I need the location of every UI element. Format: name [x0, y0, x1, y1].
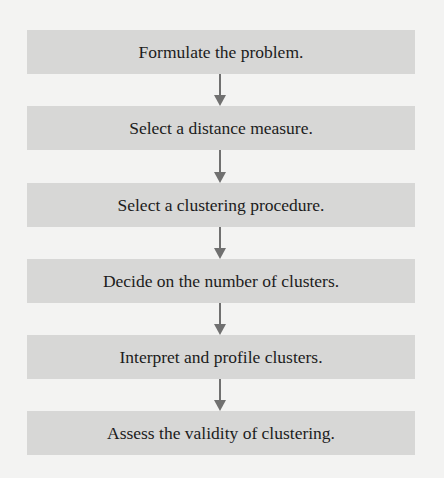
step-label: Decide on the number of clusters. [103, 271, 339, 292]
step-decide-number: Decide on the number of clusters. [27, 259, 415, 303]
step-select-distance: Select a distance measure. [27, 106, 415, 150]
step-interpret-profile: Interpret and profile clusters. [27, 335, 415, 379]
arrow-down-icon [214, 379, 226, 411]
step-label: Select a distance measure. [129, 118, 313, 139]
step-formulate-problem: Formulate the problem. [27, 30, 415, 74]
step-label: Interpret and profile clusters. [119, 347, 322, 368]
arrow-down-icon [214, 74, 226, 106]
arrow-down-icon [214, 150, 226, 183]
step-assess-validity: Assess the validity of clustering. [27, 411, 415, 455]
step-label: Select a clustering procedure. [118, 195, 325, 216]
arrow-down-icon [214, 303, 226, 335]
step-label: Formulate the problem. [139, 42, 304, 63]
step-label: Assess the validity of clustering. [107, 423, 335, 444]
arrow-down-icon [214, 227, 226, 259]
step-select-procedure: Select a clustering procedure. [27, 183, 415, 227]
